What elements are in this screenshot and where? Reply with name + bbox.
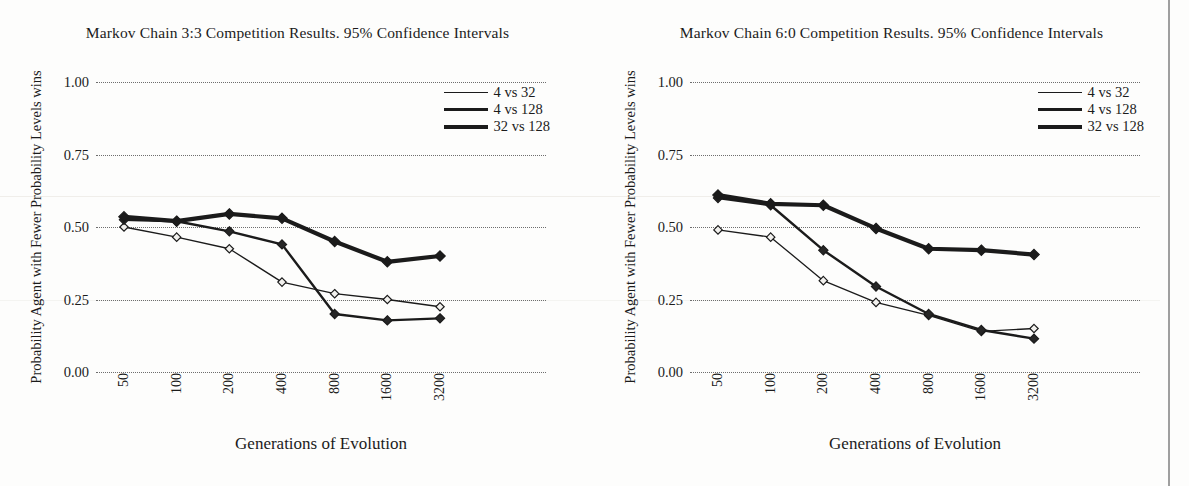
x-axis-tick-label: 800 [327,373,343,394]
series-layer [690,82,1140,372]
data-point-marker [1030,324,1038,332]
series-32-vs-128 [119,209,445,267]
y-axis-tick-label: 0.00 [64,364,89,381]
series-line [718,198,1034,339]
figure-page: Markov Chain 3:3 Competition Results. 95… [0,0,1189,486]
x-axis-tick-label: 800 [921,373,937,394]
y-axis-tick-label: 0.50 [64,219,89,236]
scan-edge-artifact [1168,0,1170,486]
chart-title: Markov Chain 3:3 Competition Results. 95… [0,24,595,42]
x-axis-tick-label: 3200 [1026,373,1042,401]
x-axis-tick-label: 100 [169,373,185,394]
data-point-marker [976,245,986,255]
series-4-vs-128 [119,215,444,325]
x-axis-tick-label: 400 [274,373,290,394]
series-4-vs-32 [120,223,444,311]
data-point-marker [435,251,445,261]
chart-panel-markov-3-3: Markov Chain 3:3 Competition Results. 95… [0,0,595,486]
data-point-marker [383,316,392,325]
data-point-marker [872,298,880,306]
chart-title: Markov Chain 6:0 Competition Results. 95… [594,24,1189,42]
chart-panel-markov-6-0: Markov Chain 6:0 Competition Results. 95… [594,0,1189,486]
x-axis-tick-label: 3200 [432,373,448,401]
series-32-vs-128 [713,190,1039,260]
gridline [690,372,1140,373]
data-point-marker [172,233,180,241]
data-point-marker [1029,249,1039,259]
y-axis-label: Probability Agent with Fewer Probability… [28,70,45,383]
y-axis-tick-label: 0.25 [658,291,683,308]
data-point-marker [383,295,391,303]
data-point-marker [435,314,444,323]
y-axis-tick-label: 0.00 [658,364,683,381]
x-axis-label: Generations of Evolution [690,434,1140,454]
series-line [718,230,1034,332]
gridline [96,372,546,373]
data-point-marker [225,245,233,253]
plot-area: Probability Agent with Fewer Probability… [690,82,1140,372]
y-axis-tick-label: 1.00 [658,74,683,91]
y-axis-tick-label: 0.75 [658,146,683,163]
series-line [124,220,440,321]
x-axis-tick-label: 50 [710,373,726,387]
series-4-vs-128 [713,193,1038,343]
y-axis-label: Probability Agent with Fewer Probability… [622,70,639,383]
x-axis-tick-label: 200 [221,373,237,394]
x-axis-tick-label: 400 [868,373,884,394]
x-axis-label: Generations of Evolution [96,434,546,454]
data-point-marker [225,227,234,236]
y-axis-tick-label: 0.75 [64,146,89,163]
data-point-marker [1029,334,1038,343]
data-point-marker [436,303,444,311]
y-axis-tick-label: 0.50 [658,219,683,236]
data-point-marker [278,278,286,286]
y-axis-tick-label: 1.00 [64,74,89,91]
data-point-marker [330,290,338,298]
x-axis-tick-label: 50 [116,373,132,387]
data-point-marker [171,216,181,226]
x-axis-tick-label: 1600 [973,373,989,401]
y-axis-tick-label: 0.25 [64,291,89,308]
plot-area: Probability Agent with Fewer Probability… [96,82,546,372]
series-layer [96,82,546,372]
x-axis-tick-label: 1600 [379,373,395,401]
data-point-marker [224,209,234,219]
data-point-marker [714,226,722,234]
x-axis-tick-label: 200 [815,373,831,394]
series-4-vs-32 [714,226,1038,336]
x-axis-tick-label: 100 [763,373,779,394]
